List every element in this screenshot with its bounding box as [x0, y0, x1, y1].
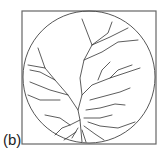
vessel-diagram [0, 0, 165, 156]
fundus-boundary [23, 11, 155, 143]
vessel-tree [28, 19, 140, 142]
